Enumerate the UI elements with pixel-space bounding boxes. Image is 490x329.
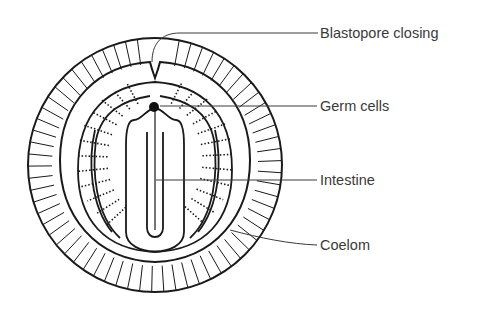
label-intestine: Intestine [320, 173, 375, 188]
intestine-structure [126, 105, 184, 252]
label-blastopore-closing: Blastopore closing [320, 26, 439, 41]
label-coelom: Coelom [320, 238, 370, 253]
germ-cell-dot [149, 102, 159, 112]
embryo-cross-section-diagram [0, 0, 490, 329]
label-germ-cells: Germ cells [320, 99, 389, 114]
